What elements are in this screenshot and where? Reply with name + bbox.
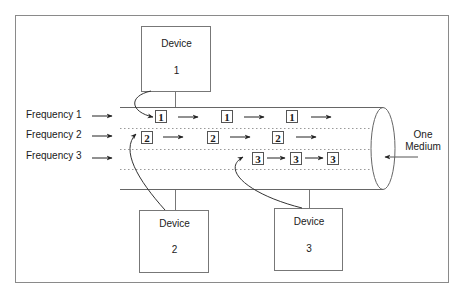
channel-1: 1 1 1 (156, 111, 332, 123)
fdm-diagram: 1 1 1 2 2 2 3 3 (0, 0, 462, 296)
svg-text:3: 3 (330, 153, 336, 165)
svg-text:2: 2 (275, 132, 281, 144)
svg-text:1: 1 (224, 111, 230, 123)
device-1-curve-arrow (135, 91, 153, 117)
medium-label-line1: One (398, 129, 448, 141)
device-1-box (142, 27, 211, 92)
medium-label-line2: Medium (398, 141, 448, 153)
frequency-1-label: Frequency 1 (26, 109, 82, 121)
device-3-title: Device (275, 216, 343, 228)
svg-text:3: 3 (293, 153, 299, 165)
device-2-curve-arrow (130, 134, 165, 210)
channel-3: 3 3 3 (253, 153, 339, 165)
frequency-2-label: Frequency 2 (26, 129, 82, 141)
device-1-number: 1 (142, 65, 211, 77)
device-2-title: Device (140, 218, 209, 230)
svg-text:2: 2 (210, 132, 216, 144)
device-3-number: 3 (275, 243, 343, 255)
frequency-3-label: Frequency 3 (26, 150, 82, 162)
channel-2: 2 2 2 (142, 132, 317, 144)
device-2-number: 2 (140, 244, 209, 256)
svg-text:1: 1 (289, 111, 295, 123)
svg-text:3: 3 (255, 153, 261, 165)
device-1-title: Device (142, 38, 211, 50)
svg-text:1: 1 (158, 111, 164, 123)
svg-text:2: 2 (144, 132, 150, 144)
